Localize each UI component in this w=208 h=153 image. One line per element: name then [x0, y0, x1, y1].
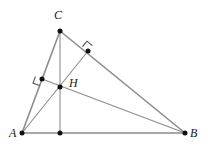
vertex-label-C: C: [54, 9, 62, 21]
point-dot-Fa: [86, 49, 91, 54]
point-dot-C: [58, 29, 63, 34]
geometry-figure: A B C H: [0, 0, 208, 153]
altitude-from-A: [22, 51, 88, 133]
point-dot-B: [183, 131, 188, 136]
altitude-from-B: [42, 79, 185, 133]
point-dot-H: [58, 85, 63, 90]
vertex-label-A: A: [9, 127, 16, 139]
vertex-label-B: B: [190, 127, 197, 139]
point-dot-A: [20, 131, 25, 136]
vertex-label-H: H: [69, 77, 78, 89]
triangle-sides: [22, 31, 185, 133]
marked-points: [20, 29, 188, 136]
point-dot-Fb: [40, 77, 45, 82]
triangle-altitudes: [22, 31, 185, 133]
segment-CB: [60, 31, 185, 133]
geometry-canvas: [0, 0, 208, 153]
segment-AC: [22, 31, 60, 133]
point-dot-Fc: [58, 131, 63, 136]
